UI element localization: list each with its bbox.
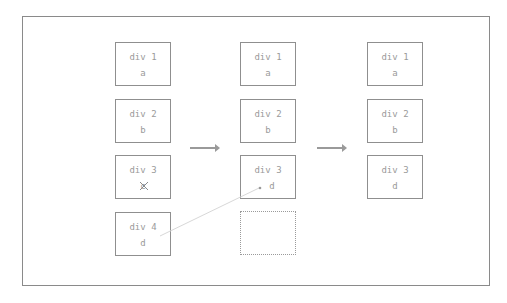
move-link-line [0, 0, 507, 303]
link-endpoint-dot [259, 187, 262, 190]
